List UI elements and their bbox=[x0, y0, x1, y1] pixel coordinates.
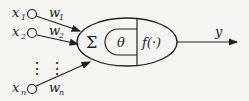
output-label: y bbox=[214, 24, 223, 39]
sum-symbol: Σ bbox=[86, 33, 97, 52]
threshold-symbol: θ bbox=[117, 35, 125, 50]
svg-text:n: n bbox=[59, 88, 64, 97]
svg-text:2: 2 bbox=[20, 32, 26, 41]
input-x1: x 1 w 1 bbox=[12, 5, 80, 31]
svg-text:x: x bbox=[12, 24, 20, 39]
input-node-icon bbox=[28, 10, 37, 19]
activation-label: f(·) bbox=[141, 35, 161, 50]
ellipsis-inputs: ⋮ bbox=[29, 59, 45, 78]
svg-text:x: x bbox=[12, 5, 20, 20]
input-node-icon bbox=[28, 29, 37, 38]
svg-text:1: 1 bbox=[21, 13, 26, 22]
svg-text:x: x bbox=[12, 80, 20, 95]
svg-text:n: n bbox=[21, 88, 26, 97]
svg-text:2: 2 bbox=[58, 31, 64, 40]
input-x2: x 2 w 2 bbox=[12, 23, 78, 44]
neuron-body: Σ θ f(·) bbox=[77, 18, 177, 66]
neuron-diagram: x 1 w 1 x 2 w 2 ⋮ ⋮ x n w n Σ θ f(·) y bbox=[0, 0, 249, 101]
ellipsis-weights: ⋮ bbox=[49, 59, 65, 78]
svg-text:1: 1 bbox=[59, 13, 64, 22]
input-node-icon bbox=[28, 85, 37, 94]
